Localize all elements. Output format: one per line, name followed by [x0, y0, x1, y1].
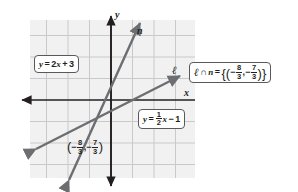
point-x-fraction: 83: [77, 139, 83, 155]
intersection-line-n: n: [208, 68, 213, 77]
set-y-negative-sign: −: [245, 68, 250, 77]
x-axis-label: x: [184, 88, 189, 98]
y-axis-label: y: [115, 10, 119, 20]
graph-canvas: [0, 0, 298, 192]
point-x-denominator: 3: [77, 148, 83, 156]
set-open-paren: (: [226, 67, 230, 80]
line-l-label: ℓ: [172, 65, 177, 76]
equation-n-plus: +: [62, 60, 67, 69]
equation-callout-line-n: y=2x+3: [34, 55, 79, 73]
point-y-denominator: 3: [92, 148, 98, 156]
equation-l-minus: −: [168, 115, 173, 124]
plot-background: [30, 20, 195, 178]
equation-n-y: y: [39, 60, 43, 69]
equation-l-equals: =: [149, 115, 154, 124]
point-open-paren: (: [67, 139, 71, 154]
intersection-equals: =: [215, 68, 220, 77]
set-x-denominator: 3: [236, 73, 242, 81]
equation-n-variable: x: [56, 60, 61, 69]
set-x-negative-sign: −: [230, 68, 235, 77]
coordinate-plane-figure: y x n ℓ y=2x+3 y=12x−1 ℓ∩n={(−83,−73)} (…: [0, 0, 298, 192]
intersect-symbol: ∩: [200, 68, 207, 77]
set-y-denominator: 3: [251, 73, 257, 81]
equation-l-variable: x: [162, 115, 167, 124]
equation-l-fraction: 12: [156, 111, 162, 127]
equation-l-constant: 1: [175, 115, 180, 124]
equation-n-equals: =: [45, 60, 50, 69]
point-close-paren: ): [99, 139, 103, 154]
set-x-fraction: 83: [236, 64, 242, 80]
set-close-brace: }: [262, 67, 266, 80]
equation-callout-line-l: y=12x−1: [138, 109, 185, 129]
intersection-line-l: ℓ: [194, 67, 199, 78]
equation-l-frac-denominator: 2: [156, 119, 162, 127]
equation-n-constant: 3: [69, 60, 74, 69]
point-y-negative-sign: −: [86, 142, 91, 152]
equation-l-y: y: [143, 115, 147, 124]
intersection-callout: ℓ∩n={(−83,−73)}: [189, 62, 271, 83]
point-y-fraction: 73: [92, 139, 98, 155]
set-y-fraction: 73: [251, 64, 257, 80]
intersection-point-label: (−83,−73): [67, 139, 103, 156]
line-n-label: n: [137, 26, 143, 36]
point-x-negative-sign: −: [71, 142, 76, 152]
